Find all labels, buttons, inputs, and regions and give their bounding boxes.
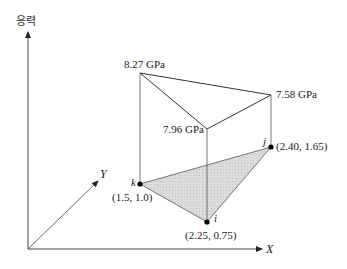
- axes: 응력 X Y: [16, 15, 274, 256]
- node-i-point: [204, 219, 209, 224]
- node-j-label: j: [261, 135, 266, 147]
- y-axis-label: Y: [100, 167, 108, 181]
- element-triangle-base: [140, 147, 271, 222]
- node-j-coords: (2.40, 1.65): [276, 140, 328, 153]
- node-i-label: i: [214, 212, 217, 224]
- node-i-coords: (2.25, 0.75): [185, 229, 237, 242]
- node-j-point: [268, 144, 273, 149]
- stress-label-k: 8.27 GPa: [124, 58, 165, 70]
- stress-label-j: 7.58 GPa: [276, 88, 317, 100]
- node-k-point: [137, 181, 142, 186]
- stress-label-i: 7.96 GPa: [163, 123, 204, 135]
- stress-diagram: 응력 X Y k (1.5, 1.0) i (2.25, 0.75) j (2.…: [0, 0, 347, 269]
- stress-axis-label: 응력: [16, 15, 36, 28]
- node-k-coords: (1.5, 1.0): [112, 191, 153, 204]
- x-axis-label: X: [265, 242, 274, 256]
- node-k-label: k: [131, 176, 137, 188]
- y-axis: [28, 181, 98, 249]
- stress-surface-triangle: [140, 73, 271, 129]
